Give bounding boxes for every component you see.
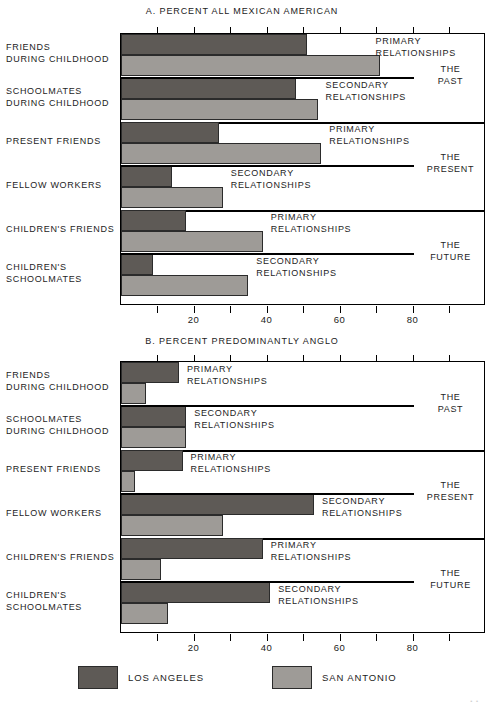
era-divider-rule: [121, 253, 414, 255]
category-label-line1: PRESENT FRIENDS: [6, 464, 101, 476]
relationship-note: PRIMARYRELATIONSHIPS: [187, 364, 267, 387]
category-label: CHILDREN'S FRIENDS: [6, 224, 114, 236]
x-axis-tick-top: [230, 355, 231, 362]
relationship-note: PRIMARYRELATIONSHIPS: [271, 540, 351, 563]
legend-swatch: [272, 666, 312, 689]
relationship-note-line2: RELATIONSHIPS: [194, 420, 274, 432]
x-axis-tick-label: 60: [334, 314, 346, 325]
category-label-line1: CHILDREN'S FRIENDS: [6, 552, 114, 564]
bar-san-antonio: [121, 515, 223, 536]
bar-san-antonio: [121, 427, 187, 448]
chart-a-plot-area: 20406080PRIMARYRELATIONSHIPSSECONDARYREL…: [120, 33, 485, 305]
bar-san-antonio: [121, 275, 249, 296]
category-label: FELLOW WORKERS: [6, 180, 102, 192]
x-axis-tick-bottom: [340, 306, 341, 313]
relationship-note-line1: SECONDARY: [278, 584, 358, 596]
relationship-note-line1: PRIMARY: [271, 540, 351, 552]
era-label-line1: THE: [438, 64, 464, 76]
era-label-line1: THE: [430, 240, 471, 252]
bar-san-antonio: [121, 187, 223, 208]
relationship-note-line2: RELATIONSHIPS: [322, 508, 402, 520]
era-label: THEPRESENT: [427, 152, 474, 175]
era-label-line2: PAST: [438, 76, 464, 88]
bar-los-angeles: [121, 538, 263, 559]
chart-a-title: A. PERCENT ALL MEXICAN AMERICAN: [146, 6, 338, 16]
x-axis-tick-bottom: [157, 634, 158, 641]
chart-b-title: B. PERCENT PREDOMINANTLY ANGLO: [145, 336, 339, 346]
category-label: CHILDREN'S FRIENDS: [6, 552, 114, 564]
x-axis-tick-bottom: [194, 634, 195, 641]
era-divider-rule: [121, 493, 414, 495]
category-label: PRESENT FRIENDS: [6, 136, 101, 148]
x-axis-tick-label: 80: [407, 314, 419, 325]
category-label-line1: FRIENDS: [6, 42, 109, 54]
bar-san-antonio: [121, 143, 322, 164]
category-label: FRIENDSDURING CHILDHOOD: [6, 370, 109, 393]
bar-los-angeles: [121, 406, 187, 427]
x-axis-tick-label: 20: [188, 642, 200, 653]
bar-san-antonio: [121, 231, 263, 252]
era-label: THEFUTURE: [430, 568, 471, 591]
category-label-line1: FELLOW WORKERS: [6, 180, 102, 192]
relationship-note-line1: SECONDARY: [194, 408, 274, 420]
relationship-note-line1: SECONDARY: [326, 80, 406, 92]
relationship-note: SECONDARYRELATIONSHIPS: [194, 408, 274, 431]
era-divider-rule: [121, 77, 414, 79]
x-axis-tick-label: 40: [261, 642, 273, 653]
relationship-note-line1: PRIMARY: [376, 36, 456, 48]
relationship-note-line2: RELATIONSHIPS: [231, 180, 311, 192]
x-axis-tick-top: [449, 27, 450, 34]
era-label-line2: PAST: [438, 404, 464, 416]
relationship-note: PRIMARYRELATIONSHIPS: [191, 452, 271, 475]
category-label: PRESENT FRIENDS: [6, 464, 101, 476]
x-axis-tick-bottom: [449, 634, 450, 641]
relationship-note-line2: RELATIONSHIPS: [278, 596, 358, 608]
category-label: FRIENDSDURING CHILDHOOD: [6, 42, 109, 65]
bar-los-angeles: [121, 78, 296, 99]
relationship-note: SECONDARYRELATIONSHIPS: [278, 584, 358, 607]
x-axis-tick-bottom: [413, 634, 414, 641]
relationship-note-line2: RELATIONSHIPS: [256, 268, 336, 280]
x-axis-tick-bottom: [230, 634, 231, 641]
category-label-line1: FRIENDS: [6, 370, 109, 382]
x-axis-tick-top: [303, 27, 304, 34]
page-mark: • •: [470, 698, 479, 704]
x-axis-tick-label: 80: [407, 642, 419, 653]
era-divider-rule: [121, 165, 414, 167]
bar-san-antonio: [121, 99, 318, 120]
relationship-note-line2: RELATIONSHIPS: [187, 376, 267, 388]
x-axis-tick-top: [376, 27, 377, 34]
x-axis-tick-top: [194, 355, 195, 362]
legend-label: SAN ANTONIO: [322, 666, 397, 689]
x-axis-tick-label: 40: [261, 314, 273, 325]
x-axis-tick-bottom: [413, 306, 414, 313]
bar-los-angeles: [121, 362, 179, 383]
x-axis-tick-bottom: [267, 634, 268, 641]
relationship-note-line2: RELATIONSHIPS: [191, 464, 271, 476]
era-label-line2: FUTURE: [430, 580, 471, 592]
x-axis-tick-top: [157, 27, 158, 34]
x-axis-tick-top: [340, 355, 341, 362]
relationship-note: PRIMARYRELATIONSHIPS: [329, 124, 409, 147]
relationship-note-line1: PRIMARY: [187, 364, 267, 376]
x-axis-tick-bottom: [157, 306, 158, 313]
x-axis-tick-top: [449, 355, 450, 362]
bar-los-angeles: [121, 582, 271, 603]
category-label-line1: CHILDREN'S: [6, 262, 82, 274]
x-axis-tick-bottom: [230, 306, 231, 313]
x-axis-tick-top: [157, 355, 158, 362]
category-label: SCHOOLMATESDURING CHILDHOOD: [6, 414, 109, 437]
relationship-note-line2: RELATIONSHIPS: [329, 136, 409, 148]
x-axis-tick-bottom: [303, 634, 304, 641]
category-label-line2: DURING CHILDHOOD: [6, 54, 109, 66]
relationship-note-line2: RELATIONSHIPS: [326, 92, 406, 104]
relationship-note-line1: SECONDARY: [256, 256, 336, 268]
era-label-line2: PRESENT: [427, 164, 474, 176]
era-label-line2: FUTURE: [430, 252, 471, 264]
x-axis-tick-top: [413, 27, 414, 34]
relationship-note: SECONDARYRELATIONSHIPS: [322, 496, 402, 519]
x-axis-tick-top: [267, 355, 268, 362]
category-label-line1: FELLOW WORKERS: [6, 508, 102, 520]
x-axis-tick-bottom: [194, 306, 195, 313]
category-label-line2: SCHOOLMATES: [6, 274, 82, 286]
